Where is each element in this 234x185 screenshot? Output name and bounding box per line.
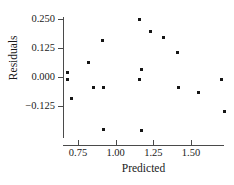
x-axis-tick-label: 1.25: [133, 148, 173, 159]
scatter-point: [140, 68, 143, 71]
scatter-point: [223, 110, 226, 113]
residual-plot-figure: 0.2500.1250.000−0.125 0.751.001.251.50 P…: [0, 0, 234, 185]
scatter-point: [102, 128, 105, 131]
scatter-point: [140, 129, 143, 132]
x-axis-tick-label: 0.75: [58, 148, 98, 159]
x-axis-tick: [78, 140, 79, 146]
x-axis-tick-label: 1.00: [96, 148, 136, 159]
y-axis-title: Residuals: [8, 13, 20, 103]
y-axis-tick: [58, 48, 64, 49]
scatter-point: [70, 97, 73, 100]
scatter-point: [220, 78, 223, 81]
scatter-point: [138, 78, 141, 81]
y-axis-tick: [58, 106, 64, 107]
scatter-point: [197, 91, 200, 94]
x-axis-tick-label: 1.50: [171, 148, 211, 159]
x-axis-spine: [63, 145, 224, 146]
scatter-point: [87, 61, 90, 64]
scatter-point: [138, 18, 141, 21]
x-axis-tick: [153, 140, 154, 146]
scatter-point: [149, 30, 152, 33]
y-axis-tick: [58, 77, 64, 78]
scatter-point: [101, 39, 104, 42]
scatter-point: [176, 51, 179, 54]
y-axis-tick: [58, 19, 64, 20]
x-axis-tick: [191, 140, 192, 146]
scatter-point: [162, 36, 165, 39]
scatter-point: [102, 86, 105, 89]
plot-area: 0.2500.1250.000−0.125 0.751.001.251.50 P…: [0, 0, 234, 185]
x-axis-title: Predicted: [63, 163, 224, 175]
scatter-point: [66, 71, 69, 74]
scatter-point: [177, 86, 180, 89]
scatter-point: [92, 86, 95, 89]
scatter-point: [66, 78, 69, 81]
x-axis-tick: [116, 140, 117, 146]
